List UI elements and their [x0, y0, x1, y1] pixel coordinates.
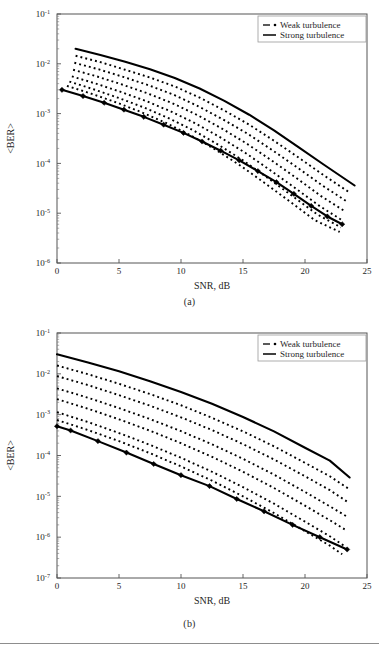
y-axis-title: <BER> — [5, 123, 16, 154]
x-tick-label: 0 — [55, 581, 60, 591]
y-tick-label: 10-1 — [36, 327, 50, 338]
dotted-curve — [73, 70, 345, 211]
chart-a: 10-110-210-310-410-510-60510152025SNR, d… — [0, 0, 379, 320]
y-tick-label: 10-6 — [36, 257, 50, 268]
legend-weak-label: Weak turbulence — [280, 339, 341, 349]
subcaption-b: (b) — [0, 618, 379, 629]
y-tick-label: 10-5 — [36, 490, 50, 501]
legend-weak-label: Weak turbulence — [280, 20, 341, 30]
dotted-curve — [57, 412, 343, 545]
chart-panel-a: 10-110-210-310-410-510-60510152025SNR, d… — [0, 0, 379, 320]
y-tick-label: 10-4 — [36, 449, 50, 460]
footer-divider — [0, 643, 379, 644]
y-tick-label: 10-6 — [36, 531, 50, 542]
chart-panel-b: 10-110-210-310-410-510-610-70510152025SN… — [0, 320, 379, 630]
x-tick-label: 0 — [55, 266, 60, 276]
chart-b: 10-110-210-310-410-510-610-70510152025SN… — [0, 320, 379, 630]
x-tick-label: 5 — [117, 581, 122, 591]
x-tick-label: 25 — [363, 581, 373, 591]
y-tick-label: 10-4 — [36, 157, 50, 168]
data-point-marker — [102, 100, 107, 105]
dotted-curve — [57, 399, 345, 529]
x-tick-label: 15 — [239, 581, 249, 591]
y-tick-label: 10-2 — [36, 368, 50, 379]
legend-weak-dot-icon — [274, 24, 277, 27]
x-axis-title: SNR, dB — [194, 280, 230, 291]
legend-weak-dot-icon — [274, 343, 277, 346]
legend-strong-label: Strong turbulence — [280, 30, 344, 40]
legend-strong-label: Strong turbulence — [280, 349, 344, 359]
x-tick-label: 20 — [301, 581, 311, 591]
solid-curve — [76, 49, 355, 186]
x-axis-title: SNR, dB — [194, 595, 230, 606]
x-tick-label: 25 — [363, 266, 373, 276]
solid-curve — [62, 90, 342, 224]
dotted-curve — [67, 86, 340, 232]
x-tick-label: 5 — [117, 266, 122, 276]
y-tick-label: 10-5 — [36, 207, 50, 218]
figure-page: 10-110-210-310-410-510-60510152025SNR, d… — [0, 0, 379, 651]
y-axis-title: <BER> — [5, 440, 16, 471]
subcaption-a: (a) — [0, 296, 379, 307]
data-point-marker — [121, 107, 126, 112]
dotted-curve — [69, 82, 341, 228]
y-tick-label: 10-2 — [36, 58, 50, 69]
x-tick-label: 20 — [301, 266, 311, 276]
x-tick-label: 15 — [239, 266, 249, 276]
data-point-marker — [59, 87, 64, 92]
x-tick-label: 10 — [177, 581, 187, 591]
y-tick-label: 10-3 — [36, 107, 50, 118]
solid-curve — [57, 426, 347, 549]
x-tick-label: 10 — [177, 266, 187, 276]
y-tick-label: 10-7 — [36, 572, 50, 583]
y-tick-label: 10-1 — [36, 8, 50, 19]
y-tick-label: 10-3 — [36, 408, 50, 419]
dotted-curve — [57, 388, 346, 516]
data-point-marker — [54, 424, 59, 429]
data-point-marker — [80, 93, 85, 98]
solid-curve — [57, 354, 350, 477]
plot-frame — [57, 14, 367, 263]
